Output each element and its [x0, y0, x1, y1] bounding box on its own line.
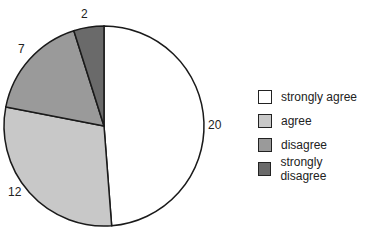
value-label-strongly-agree: 20 [208, 118, 221, 132]
legend-swatch [258, 114, 272, 128]
legend-item-disagree: disagree [258, 133, 367, 157]
legend-label: strongly disagree [280, 155, 367, 183]
value-label-disagree: 7 [18, 42, 25, 56]
legend-label: strongly agree [281, 90, 357, 104]
value-label-strongly-disagree: 2 [81, 7, 88, 21]
value-label-agree: 12 [8, 185, 21, 199]
legend-item-agree: agree [258, 109, 367, 133]
legend-item-strongly-agree: strongly agree [258, 85, 367, 109]
legend-item-strongly-disagree: strongly disagree [258, 157, 367, 181]
legend-label: agree [281, 114, 312, 128]
legend: strongly agree agree disagree strongly d… [258, 85, 367, 181]
legend-swatch [258, 138, 272, 152]
legend-swatch [258, 162, 271, 176]
legend-label: disagree [281, 138, 327, 152]
legend-swatch [258, 90, 272, 104]
pie-slice-strongly-agree [104, 26, 204, 226]
